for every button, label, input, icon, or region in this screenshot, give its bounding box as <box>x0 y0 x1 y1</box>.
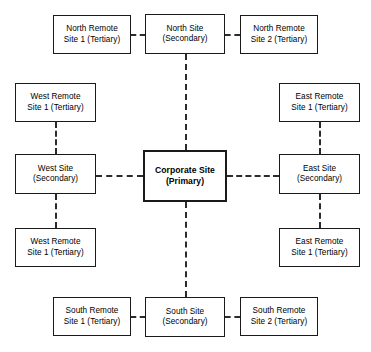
node-label-line1: South Remote <box>253 306 306 317</box>
node-label-line1: North Remote <box>253 24 305 35</box>
link-north-site-to-corporate <box>185 54 187 150</box>
node-north-remote-site-2[interactable]: North Remote Site 2 (Tertiary) <box>240 15 318 54</box>
link-south-remote-1-to-south-site <box>131 316 145 318</box>
node-west-site[interactable]: West Site (Secondary) <box>15 154 96 194</box>
node-east-site[interactable]: East Site (Secondary) <box>279 154 360 194</box>
node-west-remote-site-1-upper[interactable]: West Remote Site 1 (Tertiary) <box>15 83 96 122</box>
node-corporate-site[interactable]: Corporate Site (Primary) <box>143 150 227 202</box>
link-east-site-to-east-remote-bottom <box>319 194 321 228</box>
link-corporate-to-east-site <box>227 175 279 177</box>
node-east-remote-site-1-upper[interactable]: East Remote Site 1 (Tertiary) <box>279 83 360 122</box>
node-label-line1: South Remote <box>66 306 119 317</box>
network-topology-diagram: North Remote Site 1 (Tertiary) North Sit… <box>0 0 371 352</box>
node-label-line1: East Remote <box>296 92 344 103</box>
link-corporate-to-south-site <box>185 202 187 297</box>
node-label-line2: Site 1 (Tertiary) <box>64 317 120 328</box>
node-label-line1: West Remote <box>31 237 81 248</box>
node-east-remote-site-1-lower[interactable]: East Remote Site 1 (Tertiary) <box>279 228 360 267</box>
node-label-line2: Site 1 (Tertiary) <box>27 248 83 259</box>
link-south-site-to-south-remote-2 <box>225 316 240 318</box>
node-label-line2: Site 1 (Tertiary) <box>291 103 347 114</box>
node-label-line2: Site 2 (Tertiary) <box>251 35 307 46</box>
node-label-line1: North Remote <box>66 24 118 35</box>
node-label-line2: (Primary) <box>166 176 204 188</box>
link-west-site-to-corporate <box>96 175 143 177</box>
node-label-line1: South Site <box>166 307 204 318</box>
link-east-remote-top-to-east-site <box>319 122 321 154</box>
node-label-line1: West Remote <box>31 92 81 103</box>
node-label-line2: Site 1 (Tertiary) <box>27 103 83 114</box>
node-label-line2: (Secondary) <box>33 174 78 185</box>
node-north-remote-site-1[interactable]: North Remote Site 1 (Tertiary) <box>53 15 131 54</box>
node-label-line1: Corporate Site <box>155 165 215 177</box>
link-west-remote-top-to-west-site <box>55 122 57 154</box>
node-south-site[interactable]: South Site (Secondary) <box>145 297 225 337</box>
link-north-remote-1-to-north-site <box>131 34 145 36</box>
node-label-line2: Site 1 (Tertiary) <box>291 248 347 259</box>
node-label-line2: (Secondary) <box>297 174 342 185</box>
node-south-remote-site-2[interactable]: South Remote Site 2 (Tertiary) <box>240 297 318 336</box>
node-west-remote-site-1-lower[interactable]: West Remote Site 1 (Tertiary) <box>15 228 96 267</box>
link-west-site-to-west-remote-bottom <box>55 194 57 228</box>
node-label-line2: (Secondary) <box>162 34 207 45</box>
node-south-remote-site-1[interactable]: South Remote Site 1 (Tertiary) <box>53 297 131 336</box>
node-label-line2: (Secondary) <box>162 317 207 328</box>
node-label-line1: East Remote <box>296 237 344 248</box>
node-label-line2: Site 1 (Tertiary) <box>64 35 120 46</box>
link-north-site-to-north-remote-2 <box>225 34 240 36</box>
node-label-line1: West Site <box>38 164 73 175</box>
node-label-line2: Site 2 (Tertiary) <box>251 317 307 328</box>
node-north-site[interactable]: North Site (Secondary) <box>145 14 225 54</box>
node-label-line1: North Site <box>167 24 204 35</box>
node-label-line1: East Site <box>303 164 336 175</box>
